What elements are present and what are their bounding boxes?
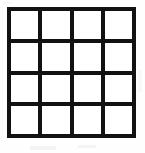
grid-cell[interactable] xyxy=(11,43,38,71)
grid-cell[interactable] xyxy=(42,11,69,39)
grid-cell[interactable] xyxy=(74,75,101,103)
grid-cell[interactable] xyxy=(74,106,101,134)
scan-artifact xyxy=(138,70,142,92)
grid-4x4 xyxy=(7,7,136,138)
grid-cell[interactable] xyxy=(105,75,132,103)
grid-cell[interactable] xyxy=(105,43,132,71)
scan-artifact xyxy=(30,146,56,150)
scan-artifact xyxy=(2,2,12,4)
grid-cell[interactable] xyxy=(105,11,132,39)
grid-cell[interactable] xyxy=(105,106,132,134)
scan-artifact xyxy=(78,145,96,148)
grid-cell[interactable] xyxy=(74,11,101,39)
grid-cell[interactable] xyxy=(74,43,101,71)
grid-cell[interactable] xyxy=(42,43,69,71)
grid-cell[interactable] xyxy=(11,106,38,134)
figure-canvas xyxy=(0,0,145,153)
grid-cell[interactable] xyxy=(42,75,69,103)
grid-cell[interactable] xyxy=(11,75,38,103)
grid-cell[interactable] xyxy=(42,106,69,134)
grid-cell[interactable] xyxy=(11,11,38,39)
